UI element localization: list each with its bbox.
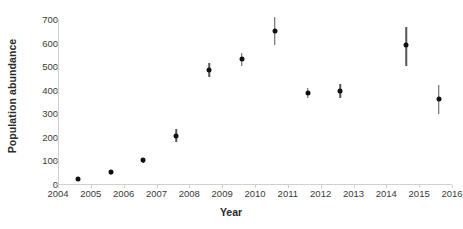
- x-axis-tick-mark: [419, 185, 420, 188]
- data-point: [338, 88, 343, 93]
- data-point: [174, 133, 179, 138]
- data-point: [108, 170, 113, 175]
- data-point: [272, 28, 277, 33]
- y-axis-tick-mark: [55, 90, 58, 91]
- x-axis-tick-mark: [452, 185, 453, 188]
- x-axis-tick-label: 2007: [146, 188, 167, 199]
- y-axis-tick-mark: [55, 66, 58, 67]
- x-axis-tick-mark: [58, 185, 59, 188]
- x-axis-title: Year: [0, 206, 462, 218]
- x-axis-tick-mark: [255, 185, 256, 188]
- y-axis-line: [58, 19, 59, 184]
- data-point: [207, 67, 212, 72]
- x-axis-tick-mark: [288, 185, 289, 188]
- x-axis-tick-label: 2005: [80, 188, 101, 199]
- data-point: [75, 177, 80, 182]
- x-axis-tick-label: 2012: [310, 188, 331, 199]
- data-point: [305, 91, 310, 96]
- x-axis-tick-label: 2016: [441, 188, 462, 199]
- x-axis-tick-label: 2013: [343, 188, 364, 199]
- x-axis-tick-label: 2004: [47, 188, 68, 199]
- x-axis-tick-label: 2008: [179, 188, 200, 199]
- x-axis-tick-label: 2009: [212, 188, 233, 199]
- x-axis-tick-mark: [321, 185, 322, 188]
- y-axis-tick-mark: [55, 43, 58, 44]
- x-axis-tick-label: 2015: [409, 188, 430, 199]
- data-point: [141, 158, 146, 163]
- x-axis-tick-mark: [157, 185, 158, 188]
- x-axis-tick-mark: [124, 185, 125, 188]
- y-axis-tick-mark: [55, 137, 58, 138]
- x-axis-tick-mark: [91, 185, 92, 188]
- x-axis-tick-label: 2006: [113, 188, 134, 199]
- x-axis-tick-label: 2011: [278, 188, 298, 199]
- x-axis-tick-mark: [386, 185, 387, 188]
- x-axis-tick-label: 2010: [244, 188, 265, 199]
- y-axis-tick-mark: [55, 160, 58, 161]
- x-axis-tick-mark: [189, 185, 190, 188]
- data-point: [436, 97, 441, 102]
- x-axis-tick-mark: [354, 185, 355, 188]
- y-axis-tick-mark: [55, 19, 58, 20]
- x-axis-tick-label: 2014: [376, 188, 397, 199]
- y-axis-tick-mark: [55, 113, 58, 114]
- data-point: [404, 42, 409, 47]
- x-axis-tick-mark: [222, 185, 223, 188]
- data-point: [239, 57, 244, 62]
